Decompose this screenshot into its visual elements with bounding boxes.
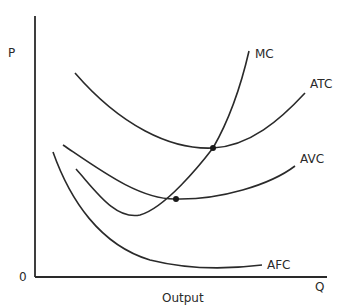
afc-label: AFC: [267, 258, 291, 272]
origin-label: 0: [19, 270, 27, 284]
afc-curve: [53, 152, 262, 268]
mc-curve: [76, 51, 249, 216]
x-axis-title: Output: [162, 291, 204, 305]
atc-curve: [75, 73, 305, 148]
atc-label: ATC: [310, 77, 332, 91]
mc-avc-intersection-point: [173, 196, 179, 202]
y-axis-label: P: [8, 46, 15, 60]
mc-label: MC: [255, 47, 274, 61]
x-axis-end-label: Q: [315, 280, 324, 294]
mc-atc-intersection-point: [210, 145, 216, 151]
avc-curve: [63, 145, 295, 199]
cost-curves-diagram: MC ATC AVC AFC P Q 0 Output: [0, 0, 355, 307]
avc-label: AVC: [300, 152, 324, 166]
